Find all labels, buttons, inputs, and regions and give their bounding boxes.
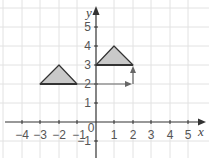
- x-tick-labels: −4 −3 −2 −1 1 2 3 4 5: [15, 128, 192, 142]
- vertical-translation-arrow: [130, 66, 136, 84]
- x-tick-label: 1: [111, 128, 118, 142]
- grid-lines: [0, 0, 209, 158]
- x-tick-label: −2: [52, 128, 66, 142]
- y-axis-arrowhead-icon: [93, 6, 100, 15]
- origin-label: 0: [88, 121, 95, 135]
- y-tick-label: 1: [84, 96, 91, 110]
- original-triangle: [40, 65, 77, 84]
- y-axis-label: y: [84, 5, 92, 20]
- y-tick-label: 3: [84, 58, 91, 72]
- x-axis-label: x: [197, 124, 204, 139]
- y-tick-label: 2: [84, 77, 91, 91]
- x-tick-label: 4: [167, 128, 174, 142]
- x-tick-label: −3: [33, 128, 47, 142]
- x-axis: [5, 119, 206, 126]
- y-tick-label: 4: [84, 39, 91, 53]
- x-tick-label: 2: [130, 128, 137, 142]
- x-tick-label: −4: [15, 128, 29, 142]
- y-tick-label: −1: [77, 134, 91, 148]
- translated-triangle: [96, 46, 133, 65]
- x-tick-label: 3: [148, 128, 155, 142]
- arrowhead-up-icon: [130, 66, 136, 73]
- x-tick-label: 5: [185, 128, 192, 142]
- y-axis: [93, 6, 100, 158]
- arrowhead-right-icon: [125, 81, 132, 87]
- y-tick-label: 5: [84, 20, 91, 34]
- coordinate-grid: −4 −3 −2 −1 1 2 3 4 5 0 −1 1 2 3 4 5 x y: [0, 0, 209, 158]
